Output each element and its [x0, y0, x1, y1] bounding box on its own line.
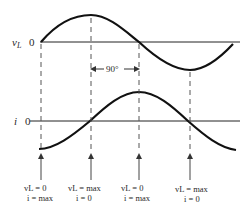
marker-4-line2: i = 0 — [184, 194, 200, 204]
vl-label: vL — [12, 36, 22, 50]
marker-arrows — [41, 156, 190, 180]
marker-3-line2: i = max — [124, 193, 151, 203]
vl-zero-label: 0 — [29, 36, 35, 48]
marker-3-line1: vL = 0 — [121, 183, 143, 193]
i-zero-label: 0 — [25, 115, 31, 127]
phase-diagram: vL 0 i 0 90° vL = 0 i = max vL = max i =… — [0, 0, 244, 214]
dashed-guides — [41, 18, 190, 152]
marker-1-line2: i = max — [27, 193, 54, 203]
marker-2-line2: i = 0 — [76, 193, 92, 203]
phase-label: 90° — [106, 64, 119, 74]
marker-2-line1: vL = max — [68, 183, 102, 193]
i-label: i — [14, 115, 17, 127]
marker-4-line1: vL = max — [175, 184, 209, 194]
marker-labels: vL = 0 i = max vL = max i = 0 vL = 0 i =… — [24, 183, 209, 204]
marker-1-line1: vL = 0 — [24, 183, 46, 193]
